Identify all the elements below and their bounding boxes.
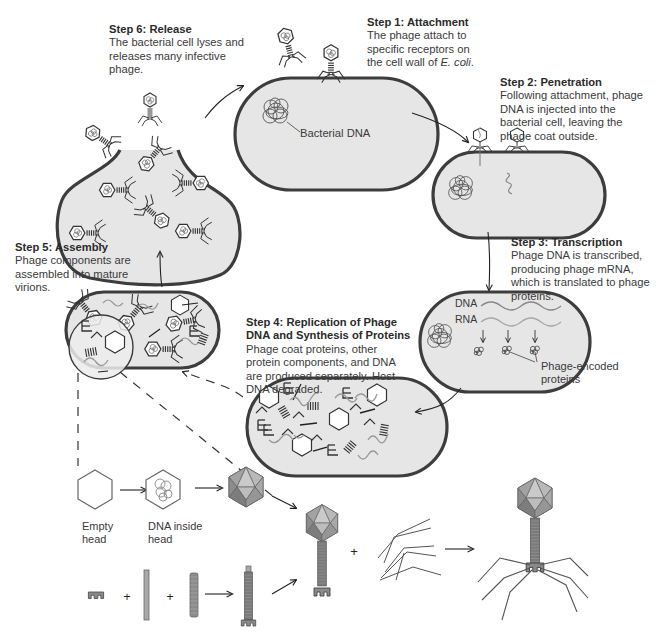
step2-title: Step 2: Penetration [500, 76, 656, 89]
step2-body: Following attachment, phage DNA is injec… [500, 89, 656, 143]
step5-caption: Step 5: Assembly Phage components are as… [15, 241, 133, 295]
step4-body: Phage coat proteins, other protein compo… [246, 343, 414, 397]
step1-title: Step 1: Attachment [367, 16, 487, 29]
svg-text:+: + [166, 590, 173, 604]
step4-caption: Step 4: Replication of Phage DNA and Syn… [246, 316, 414, 396]
arrow-step2-to-step3 [488, 232, 490, 290]
dna-inside-head-label: DNA inside head [148, 520, 208, 546]
assembly-pathway: + + + [78, 467, 588, 626]
step2-cell [433, 128, 605, 238]
plus-sign: + [350, 544, 358, 559]
lytic-cycle-diagram: + + + [0, 0, 656, 639]
tail-core-icon [144, 570, 149, 620]
step1-body: The phage attach to specific receptors o… [367, 29, 487, 69]
step3-body: Phage DNA is transcribed, producing phag… [511, 249, 656, 303]
step2-caption: Step 2: Penetration Following attachment… [500, 76, 656, 143]
step6-caption: Step 6: Release The bacterial cell lyses… [109, 23, 249, 77]
step5-title: Step 5: Assembly [15, 241, 133, 254]
rna-label: RNA [455, 313, 477, 325]
step5-body: Phage components are assembled into matu… [15, 254, 133, 294]
dna-label: DNA [455, 297, 477, 309]
mature-phage-icon [518, 478, 552, 518]
head-tail-complex-icon [306, 505, 337, 542]
svg-text:+: + [123, 590, 130, 604]
empty-head-icon [78, 470, 112, 509]
step6-body: The bacterial cell lyses and releases ma… [109, 36, 249, 76]
phage-encoded-proteins-label: Phage-encoded proteins [541, 360, 621, 386]
tail-sheath-icon [190, 573, 198, 617]
step3-title: Step 3: Transcription [511, 236, 656, 249]
empty-head-label: Empty head [82, 520, 122, 546]
step5-cell [64, 286, 219, 379]
complete-capsid-icon [229, 467, 263, 507]
attaching-phage-icon [270, 25, 306, 69]
step3-caption: Step 3: Transcription Phage DNA is trans… [511, 236, 656, 303]
baseplate-icon [88, 592, 103, 598]
bacterial-dna-label: Bacterial DNA [300, 127, 371, 139]
arrow-step4-to-step5 [183, 372, 243, 397]
step1-caption: Step 1: Attachment The phage attach to s… [367, 16, 487, 70]
step4-title: Step 4: Replication of Phage DNA and Syn… [246, 316, 414, 343]
tail-fibers-icon [378, 519, 441, 580]
released-phage-icon [138, 93, 162, 126]
step6-title: Step 6: Release [109, 23, 249, 36]
assembled-tail-icon [241, 566, 255, 626]
